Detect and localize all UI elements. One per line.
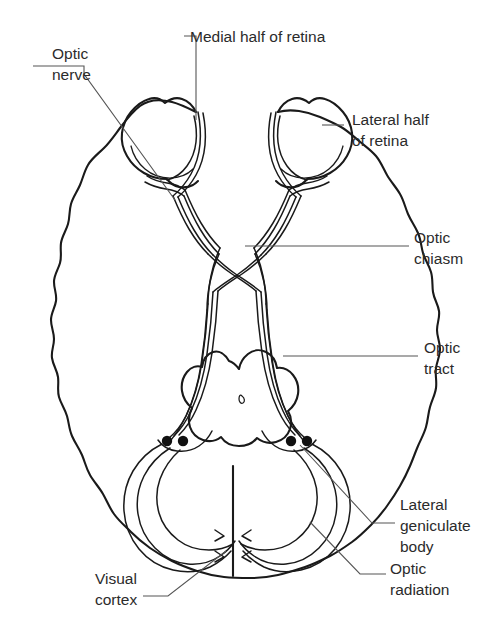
lateral-geniculate-body-left — [162, 436, 188, 446]
label-lateral-geniculate-body: Lateral geniculate body — [400, 496, 471, 555]
lgb-dot-left-medial — [162, 436, 172, 446]
label-visual-cortex-line1: Visual — [95, 570, 137, 587]
optic-tract-left — [169, 291, 218, 440]
lgb-dot-right-medial — [302, 436, 312, 446]
lgb-dot-left-lateral — [178, 436, 188, 446]
optic-radiation-right — [239, 444, 350, 572]
label-lateral-geniculate-body-line2: geniculate — [400, 517, 471, 534]
label-lateral-geniculate-body-line1: Lateral — [400, 496, 447, 513]
label-visual-cortex: Visual cortex — [95, 570, 137, 608]
leader-optic-radiation — [310, 522, 386, 574]
label-optic-nerve-line2: nerve — [52, 66, 91, 83]
label-optic-nerve-line1: Optic — [52, 45, 88, 62]
label-optic-radiation-line2: radiation — [390, 581, 449, 598]
label-optic-tract: Optic tract — [424, 339, 460, 377]
label-lateral-geniculate-body-line3: body — [400, 538, 434, 555]
label-optic-nerve: Optic nerve — [52, 45, 91, 83]
label-lateral-half-of-retina-line2: of retina — [352, 132, 408, 149]
cerebral-outline — [51, 100, 440, 578]
lgb-dot-right-lateral — [286, 436, 296, 446]
lateral-geniculate-body-right — [286, 436, 312, 446]
leader-visual-cortex — [143, 551, 226, 596]
label-optic-chiasm-line2: chiasm — [414, 250, 463, 267]
label-lateral-half-of-retina-line1: Lateral half — [352, 111, 429, 128]
label-visual-cortex-line2: cortex — [95, 591, 137, 608]
optic-nerve-left — [173, 190, 220, 255]
label-medial-half-of-retina: Medial half of retina — [190, 28, 326, 45]
optic-nerve-right — [254, 190, 301, 255]
left-eyeball — [122, 98, 206, 197]
label-lateral-half-of-retina: Lateral half of retina — [352, 111, 429, 149]
visual-pathway-diagram: Medial half of retina Optic nerve Latera… — [0, 0, 492, 628]
label-medial-half-of-retina-line1: Medial half of retina — [190, 28, 326, 45]
label-optic-tract-line1: Optic — [424, 339, 460, 356]
label-optic-chiasm-line1: Optic — [414, 229, 450, 246]
label-optic-radiation: Optic radiation — [390, 560, 449, 598]
optic-chiasm — [207, 248, 267, 310]
optic-tract-right — [256, 291, 305, 440]
label-optic-tract-line2: tract — [424, 360, 455, 377]
diagram-canvas: Medial half of retina Optic nerve Latera… — [0, 0, 492, 628]
label-optic-radiation-line1: Optic — [390, 560, 426, 577]
